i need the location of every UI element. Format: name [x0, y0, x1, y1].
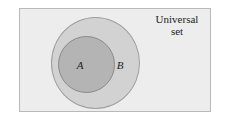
- universal-set-caption: Universal set: [146, 14, 208, 37]
- set-a-label: A: [72, 60, 88, 71]
- universal-set-caption-line-1: Universal: [146, 14, 208, 26]
- venn-diagram-figure: A B Universal set: [0, 0, 229, 127]
- set-b-label: B: [112, 60, 128, 71]
- universal-set-caption-line-2: set: [146, 26, 208, 38]
